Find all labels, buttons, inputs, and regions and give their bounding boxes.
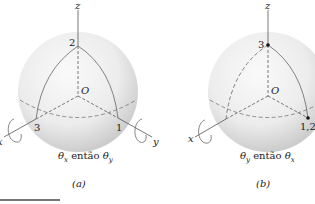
point-12-dot-b <box>306 116 310 120</box>
point-1-label-a: 1 <box>116 122 122 133</box>
origin-label-a: O <box>81 85 89 96</box>
point-3-dot-b <box>266 43 270 47</box>
point-3-label-a: 3 <box>34 122 40 133</box>
rotation-diagram: z y x O 2 3 1 z x O 3 1,2 <box>0 0 315 204</box>
panel-b: z x O 3 1,2 <box>188 0 315 152</box>
caption-a-mid: então <box>68 150 103 161</box>
y-label-a: y <box>152 136 159 147</box>
caption-b: θy então θx <box>240 150 295 164</box>
x-label-a: x <box>0 136 3 147</box>
bottom-rule-divider <box>0 199 60 201</box>
panel-a: z y x O 2 3 1 <box>0 0 159 152</box>
origin-label-b: O <box>271 85 279 96</box>
point-12-label-b: 1,2 <box>300 121 315 132</box>
caption-a: θx então θy <box>58 150 113 164</box>
caption-b-mid: então <box>250 150 285 161</box>
x-label-b: x <box>188 133 194 144</box>
z-label-b: z <box>264 0 271 11</box>
z-label-a: z <box>74 0 81 11</box>
caption-b-sub2: x <box>291 156 295 164</box>
point-2-label-a: 2 <box>69 37 75 48</box>
point-3-label-b: 3 <box>258 39 264 50</box>
caption-a-sub2: y <box>109 156 113 164</box>
panel-label-a: (a) <box>72 178 86 189</box>
panel-label-b: (b) <box>256 178 270 189</box>
